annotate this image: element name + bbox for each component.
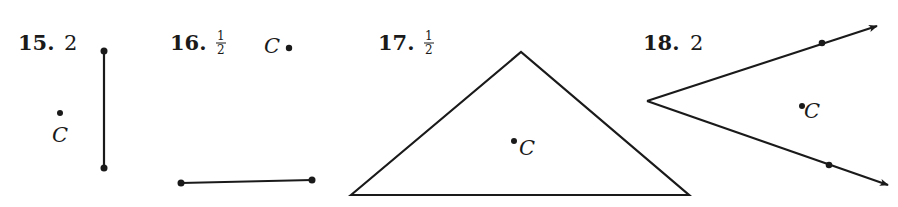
lower-ray	[647, 101, 888, 185]
segment	[181, 180, 312, 183]
problem-15: 15. 2 C	[18, 30, 108, 172]
ray-point	[826, 162, 833, 169]
endpoint-dot	[101, 48, 108, 55]
center-label: C	[804, 99, 820, 123]
problem-number: 18.	[643, 30, 680, 55]
endpoint-dot	[101, 165, 108, 172]
problem-17: 17. 1 2 C	[351, 29, 689, 195]
upper-ray	[647, 26, 877, 101]
problem-number: 15.	[18, 30, 55, 55]
center-label: C	[519, 136, 535, 160]
problem-number: 17.	[378, 30, 415, 55]
problem-16: 16. 1 2 C	[170, 29, 316, 187]
center-label: C	[264, 34, 280, 58]
endpoint-dot	[178, 180, 185, 187]
scale-factor: 2	[64, 31, 77, 55]
scale-factor: 2	[690, 31, 703, 55]
scale-denominator: 2	[425, 43, 433, 57]
problem-number: 16.	[170, 30, 207, 55]
scale-numerator: 1	[217, 29, 225, 43]
scale-denominator: 2	[217, 43, 225, 57]
problem-18: 18. 2 C	[643, 26, 888, 185]
endpoint-dot	[309, 177, 316, 184]
ray-point	[819, 40, 826, 47]
center-point	[286, 45, 292, 51]
figure-canvas: 15. 2 C 16. 1 2 C 17. 1 2 C 18. 2	[0, 0, 898, 207]
scale-numerator: 1	[425, 29, 433, 43]
center-point	[511, 138, 517, 144]
center-point	[57, 110, 63, 116]
center-label: C	[52, 123, 68, 147]
triangle	[351, 52, 689, 195]
